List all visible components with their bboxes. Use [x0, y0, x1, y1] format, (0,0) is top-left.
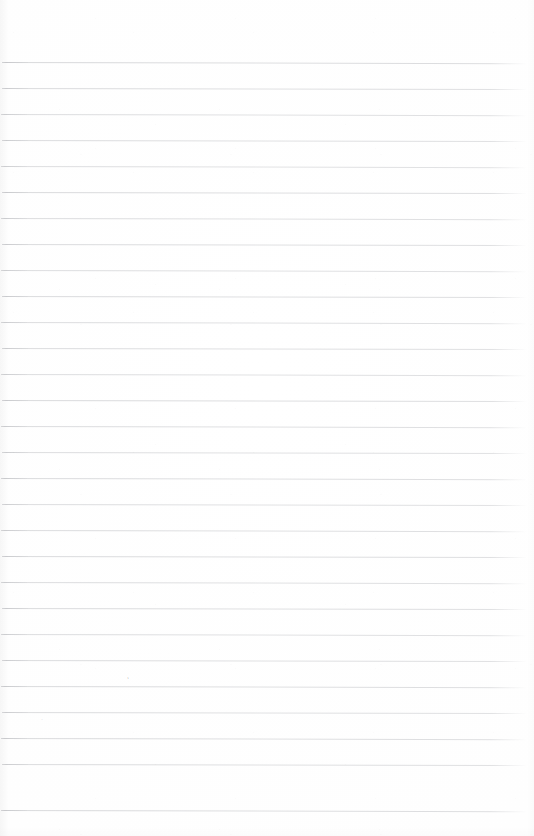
rule-line — [2, 452, 527, 454]
rule-line — [1, 530, 527, 532]
rule-line — [1, 582, 527, 584]
rule-line — [1, 686, 527, 688]
rule-line — [2, 348, 527, 350]
rule-line — [2, 660, 527, 662]
rule-line — [2, 712, 527, 714]
rule-line — [1, 114, 527, 116]
rule-line — [2, 504, 527, 506]
rule-line — [2, 296, 527, 298]
rule-line — [1, 166, 527, 168]
rule-line — [1, 218, 527, 220]
rule-line — [1, 374, 527, 376]
rule-line — [2, 88, 527, 90]
rule-line — [2, 140, 527, 142]
rule-line — [1, 478, 527, 480]
rule-line — [1, 322, 527, 324]
rule-line — [1, 738, 527, 740]
rule-line — [2, 556, 527, 558]
scanned-page: ′· — [0, 0, 534, 836]
rule-line — [1, 810, 527, 812]
rule-line — [2, 764, 527, 766]
rule-line — [1, 426, 527, 428]
rule-line — [1, 634, 527, 636]
rule-lines-layer — [0, 0, 534, 836]
rule-line — [2, 192, 527, 194]
rule-line — [1, 270, 527, 272]
pencil-mark: · — [41, 716, 43, 722]
rule-line — [2, 244, 527, 246]
rule-line — [2, 62, 527, 64]
rule-line — [2, 400, 527, 402]
rule-line — [2, 608, 527, 610]
